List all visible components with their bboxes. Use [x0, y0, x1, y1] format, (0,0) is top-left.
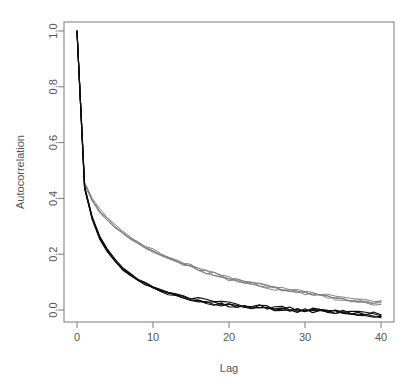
y-tick-label: 0.4 — [47, 191, 59, 206]
series-line — [77, 31, 381, 302]
series-line — [77, 31, 381, 318]
series-lines — [77, 31, 381, 318]
series-line — [77, 31, 381, 304]
y-tick-label: 0.6 — [47, 135, 59, 150]
x-tick-label: 10 — [147, 331, 159, 343]
x-axis-ticks: 010203040 — [74, 322, 387, 343]
x-axis-title: Lag — [220, 362, 238, 374]
series-line — [77, 31, 381, 317]
x-tick-label: 40 — [375, 331, 387, 343]
y-axis-ticks: 0.00.20.40.60.81.0 — [47, 23, 64, 317]
series-line — [77, 31, 381, 303]
y-axis-title: Autocorrelation — [14, 135, 26, 209]
series-line — [77, 31, 381, 315]
x-tick-label: 30 — [299, 331, 311, 343]
y-tick-label: 0.8 — [47, 79, 59, 94]
acf-plot-svg: 010203040 0.00.20.40.60.81.0 Lag Autocor… — [0, 0, 416, 388]
series-line — [77, 31, 381, 316]
x-tick-label: 0 — [74, 331, 80, 343]
acf-chart: 010203040 0.00.20.40.60.81.0 Lag Autocor… — [0, 0, 416, 388]
y-tick-label: 0.2 — [47, 247, 59, 262]
series-line — [77, 31, 381, 305]
x-tick-label: 20 — [223, 331, 235, 343]
y-tick-label: 1.0 — [47, 23, 59, 38]
y-tick-label: 0.0 — [47, 302, 59, 317]
